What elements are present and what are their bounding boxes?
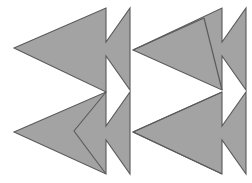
- arrow-tessellation-figure: Arrow tessellation optical illusion Four…: [0, 0, 252, 183]
